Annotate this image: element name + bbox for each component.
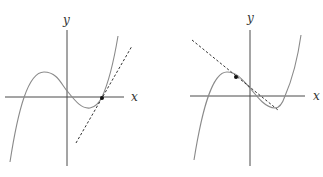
figure-canvas: y x y x bbox=[0, 0, 323, 177]
right-cubic-curve bbox=[194, 35, 301, 160]
right-panel: y x bbox=[190, 11, 320, 166]
left-panel: y x bbox=[5, 13, 138, 166]
right-y-label: y bbox=[246, 11, 254, 25]
right-x-label: x bbox=[313, 89, 320, 103]
right-tangent-line bbox=[192, 40, 278, 110]
right-tangent-point bbox=[234, 75, 238, 79]
left-tangent-line bbox=[76, 46, 132, 143]
left-y-label: y bbox=[62, 13, 70, 27]
left-tangent-point bbox=[100, 96, 104, 100]
left-x-label: x bbox=[131, 90, 138, 104]
